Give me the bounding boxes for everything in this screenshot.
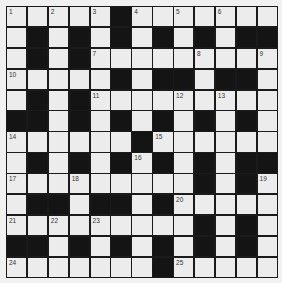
crossword-cell[interactable] bbox=[132, 174, 151, 193]
crossword-cell[interactable] bbox=[153, 174, 172, 193]
crossword-cell[interactable] bbox=[216, 28, 235, 47]
crossword-cell[interactable] bbox=[7, 195, 26, 214]
crossword-cell[interactable] bbox=[28, 258, 47, 277]
crossword-cell[interactable]: 18 bbox=[70, 174, 89, 193]
crossword-cell[interactable] bbox=[237, 7, 256, 26]
crossword-cell[interactable] bbox=[195, 70, 214, 89]
crossword-cell[interactable] bbox=[216, 49, 235, 68]
crossword-cell[interactable] bbox=[258, 132, 277, 151]
crossword-cell[interactable] bbox=[49, 49, 68, 68]
crossword-cell[interactable] bbox=[174, 237, 193, 256]
crossword-cell[interactable]: 23 bbox=[91, 216, 110, 235]
crossword-cell[interactable]: 24 bbox=[7, 258, 26, 277]
crossword-cell[interactable] bbox=[91, 70, 110, 89]
crossword-cell[interactable] bbox=[49, 28, 68, 47]
crossword-cell[interactable]: 13 bbox=[216, 91, 235, 110]
crossword-cell[interactable] bbox=[258, 258, 277, 277]
crossword-cell[interactable] bbox=[174, 111, 193, 130]
crossword-cell[interactable] bbox=[195, 7, 214, 26]
crossword-cell[interactable] bbox=[91, 258, 110, 277]
crossword-cell[interactable] bbox=[49, 258, 68, 277]
crossword-cell[interactable] bbox=[153, 91, 172, 110]
crossword-cell[interactable] bbox=[70, 7, 89, 26]
crossword-cell[interactable]: 3 bbox=[91, 7, 110, 26]
crossword-cell[interactable] bbox=[70, 70, 89, 89]
crossword-cell[interactable]: 1 bbox=[7, 7, 26, 26]
crossword-cell[interactable]: 21 bbox=[7, 216, 26, 235]
crossword-cell[interactable] bbox=[132, 258, 151, 277]
crossword-cell[interactable] bbox=[216, 237, 235, 256]
crossword-cell[interactable] bbox=[132, 195, 151, 214]
crossword-cell[interactable]: 8 bbox=[195, 49, 214, 68]
crossword-cell[interactable]: 6 bbox=[216, 7, 235, 26]
crossword-cell[interactable] bbox=[111, 258, 130, 277]
crossword-cell[interactable] bbox=[258, 91, 277, 110]
crossword-cell[interactable]: 20 bbox=[174, 195, 193, 214]
crossword-cell[interactable] bbox=[216, 174, 235, 193]
crossword-cell[interactable] bbox=[91, 153, 110, 172]
crossword-cell[interactable] bbox=[49, 70, 68, 89]
crossword-cell[interactable] bbox=[111, 132, 130, 151]
crossword-cell[interactable] bbox=[49, 153, 68, 172]
crossword-cell[interactable] bbox=[258, 7, 277, 26]
crossword-cell[interactable] bbox=[174, 174, 193, 193]
crossword-cell[interactable] bbox=[132, 28, 151, 47]
crossword-cell[interactable] bbox=[91, 174, 110, 193]
crossword-cell[interactable]: 11 bbox=[91, 91, 110, 110]
crossword-cell[interactable]: 19 bbox=[258, 174, 277, 193]
crossword-cell[interactable] bbox=[49, 132, 68, 151]
crossword-cell[interactable]: 16 bbox=[132, 153, 151, 172]
crossword-cell[interactable] bbox=[174, 216, 193, 235]
crossword-cell[interactable] bbox=[195, 91, 214, 110]
crossword-cell[interactable] bbox=[237, 258, 256, 277]
crossword-cell[interactable] bbox=[132, 49, 151, 68]
crossword-cell[interactable] bbox=[216, 258, 235, 277]
crossword-cell[interactable]: 14 bbox=[7, 132, 26, 151]
crossword-cell[interactable] bbox=[70, 258, 89, 277]
crossword-cell[interactable] bbox=[174, 132, 193, 151]
crossword-cell[interactable] bbox=[153, 216, 172, 235]
crossword-cell[interactable]: 10 bbox=[7, 70, 26, 89]
crossword-cell[interactable] bbox=[91, 132, 110, 151]
crossword-cell[interactable]: 12 bbox=[174, 91, 193, 110]
crossword-cell[interactable] bbox=[7, 91, 26, 110]
crossword-cell[interactable] bbox=[258, 195, 277, 214]
crossword-cell[interactable] bbox=[7, 49, 26, 68]
crossword-cell[interactable] bbox=[28, 70, 47, 89]
crossword-cell[interactable] bbox=[195, 258, 214, 277]
crossword-cell[interactable] bbox=[70, 195, 89, 214]
crossword-cell[interactable] bbox=[132, 70, 151, 89]
crossword-cell[interactable]: 25 bbox=[174, 258, 193, 277]
crossword-cell[interactable] bbox=[28, 216, 47, 235]
crossword-cell[interactable] bbox=[7, 28, 26, 47]
crossword-cell[interactable] bbox=[237, 195, 256, 214]
crossword-cell[interactable] bbox=[174, 28, 193, 47]
crossword-cell[interactable] bbox=[258, 70, 277, 89]
crossword-cell[interactable]: 9 bbox=[258, 49, 277, 68]
crossword-cell[interactable] bbox=[174, 153, 193, 172]
crossword-cell[interactable] bbox=[237, 49, 256, 68]
crossword-cell[interactable] bbox=[258, 237, 277, 256]
crossword-cell[interactable]: 4 bbox=[132, 7, 151, 26]
crossword-cell[interactable]: 17 bbox=[7, 174, 26, 193]
crossword-cell[interactable] bbox=[111, 49, 130, 68]
crossword-cell[interactable] bbox=[132, 111, 151, 130]
crossword-cell[interactable] bbox=[216, 195, 235, 214]
crossword-cell[interactable] bbox=[195, 132, 214, 151]
crossword-cell[interactable] bbox=[195, 195, 214, 214]
crossword-cell[interactable]: 2 bbox=[49, 7, 68, 26]
crossword-cell[interactable] bbox=[28, 7, 47, 26]
crossword-cell[interactable] bbox=[91, 28, 110, 47]
crossword-cell[interactable] bbox=[132, 91, 151, 110]
crossword-cell[interactable] bbox=[237, 91, 256, 110]
crossword-cell[interactable] bbox=[258, 111, 277, 130]
crossword-cell[interactable] bbox=[28, 174, 47, 193]
crossword-cell[interactable] bbox=[153, 7, 172, 26]
crossword-cell[interactable] bbox=[7, 153, 26, 172]
crossword-cell[interactable] bbox=[258, 216, 277, 235]
crossword-cell[interactable] bbox=[111, 91, 130, 110]
crossword-cell[interactable] bbox=[49, 237, 68, 256]
crossword-cell[interactable] bbox=[91, 111, 110, 130]
crossword-cell[interactable] bbox=[132, 216, 151, 235]
crossword-cell[interactable] bbox=[111, 216, 130, 235]
